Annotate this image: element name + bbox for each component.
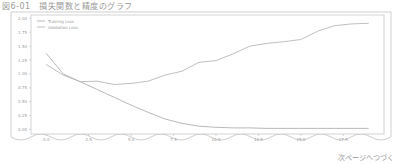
x-tick-label: 15.0 bbox=[296, 137, 305, 142]
x-tick-label: 12.5 bbox=[254, 137, 263, 142]
y-tick-label: 1.50 bbox=[18, 44, 27, 49]
x-tick-label: 17.5 bbox=[339, 137, 348, 142]
x-tick-label: 10.0 bbox=[212, 137, 221, 142]
legend-entry: Training Loss bbox=[47, 19, 74, 24]
y-axis: 0.000.250.500.751.001.251.501.752.00 bbox=[18, 16, 31, 132]
y-tick-label: 0.25 bbox=[18, 113, 27, 118]
y-tick-label: 1.00 bbox=[18, 71, 27, 76]
legend-entry: Validation Loss bbox=[48, 25, 78, 30]
plot-area bbox=[31, 15, 384, 134]
y-tick-label: 1.75 bbox=[18, 30, 27, 35]
y-tick-label: 0.75 bbox=[18, 85, 27, 90]
x-tick-label: 7.5 bbox=[170, 137, 177, 142]
x-tick-label: 2.5 bbox=[86, 137, 93, 142]
x-tick-label: 5.0 bbox=[128, 137, 135, 142]
y-tick-label: 0.00 bbox=[18, 127, 27, 132]
x-tick-label: 0.0 bbox=[43, 137, 50, 142]
y-tick-label: 2.00 bbox=[18, 16, 27, 21]
chart-frame: 0.000.250.500.751.001.251.501.752.00 0.0… bbox=[10, 11, 393, 149]
y-tick-label: 1.25 bbox=[18, 58, 27, 63]
figure-title: 図6-01 損失関数と精度のグラフ bbox=[2, 0, 133, 11]
continued-next-page: 次ページへつづく bbox=[338, 152, 394, 162]
y-tick-label: 0.50 bbox=[18, 99, 27, 104]
